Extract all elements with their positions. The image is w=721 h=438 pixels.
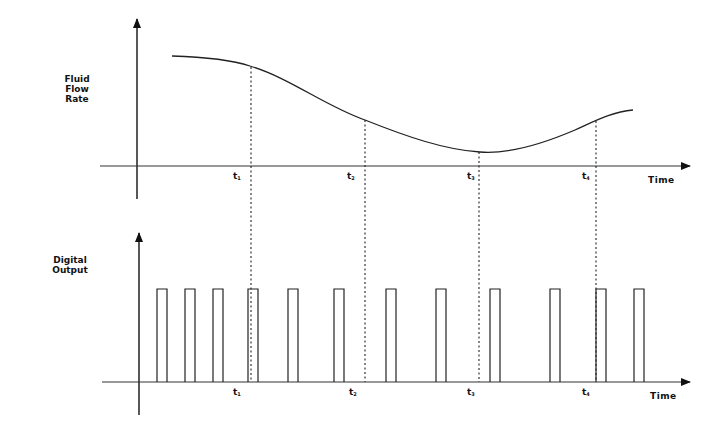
top-tick-t3: t3 <box>467 171 475 183</box>
tick-sub: 3 <box>471 391 474 397</box>
top-panel <box>100 19 690 199</box>
y-label-line: Rate <box>47 94 107 104</box>
y-label-line: Flow <box>47 84 107 94</box>
pulse <box>634 289 644 382</box>
bottom-tick-t4: t4 <box>582 387 590 399</box>
pulse <box>157 289 167 382</box>
tick-sub: 4 <box>586 391 589 397</box>
tick-sub: 2 <box>351 175 354 181</box>
top-tick-t1: t1 <box>233 171 241 183</box>
top-tick-t2: t2 <box>347 171 355 183</box>
bottom-tick-t3: t3 <box>467 387 475 399</box>
y-label-line: Output <box>40 265 100 275</box>
top-tick-t4: t4 <box>582 171 590 183</box>
bottom-tick-t2: t2 <box>349 387 357 399</box>
y-label-line: Digital <box>40 255 100 265</box>
flow-diagram <box>0 0 721 438</box>
flow-rate-curve <box>172 56 633 152</box>
top-y-label: Fluid Flow Rate <box>47 74 107 104</box>
tick-sub: 2 <box>353 391 356 397</box>
pulse <box>596 289 606 382</box>
bottom-x-label: Time <box>650 391 677 401</box>
pulse <box>213 289 223 382</box>
tick-sub: 4 <box>586 175 589 181</box>
bottom-panel <box>102 233 690 415</box>
time-guides <box>251 67 596 382</box>
top-x-label: Time <box>648 175 675 185</box>
pulse <box>490 289 500 382</box>
pulse-train <box>157 289 644 382</box>
pulse <box>185 289 195 382</box>
tick-sub: 1 <box>237 391 240 397</box>
tick-sub: 1 <box>237 175 240 181</box>
pulse <box>386 289 396 382</box>
bottom-y-label: Digital Output <box>40 255 100 275</box>
pulse <box>334 289 344 382</box>
pulse <box>436 289 446 382</box>
pulse <box>248 289 258 382</box>
bottom-tick-t1: t1 <box>233 387 241 399</box>
y-label-line: Fluid <box>47 74 107 84</box>
pulse <box>550 289 560 382</box>
tick-sub: 3 <box>471 175 474 181</box>
pulse <box>288 289 298 382</box>
